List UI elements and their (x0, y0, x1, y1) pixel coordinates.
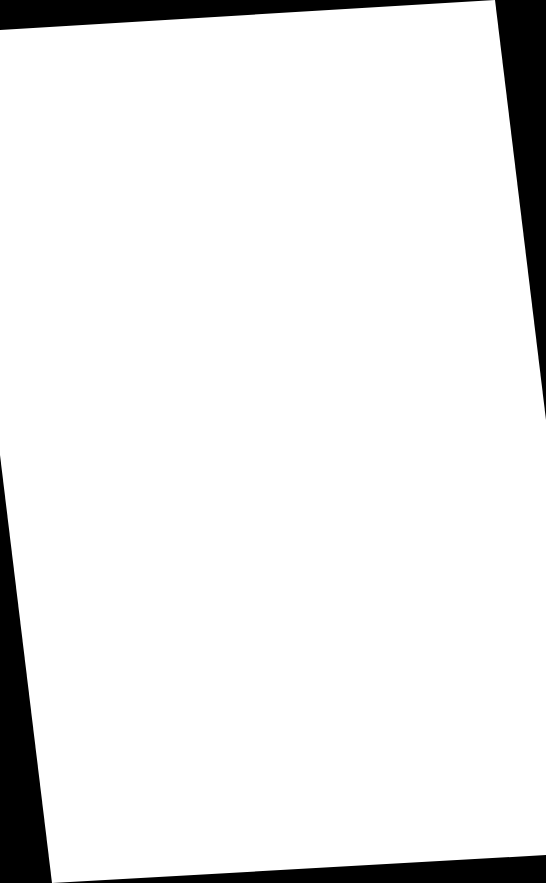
scan-background (0, 0, 546, 883)
blank-page (0, 0, 546, 883)
